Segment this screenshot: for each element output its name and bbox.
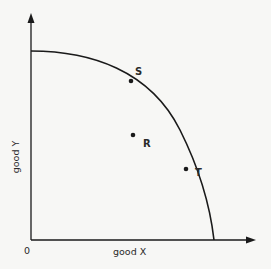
point-t-label: T: [195, 167, 202, 178]
x-axis-arrow-icon: [246, 237, 256, 244]
origin-label: 0: [24, 245, 30, 256]
diagram-svg: S T R 0 good X good Y: [0, 0, 271, 269]
frontier-curve: [31, 51, 214, 240]
y-axis-arrow-icon: [28, 13, 35, 23]
point-s-label: S: [135, 66, 142, 77]
ppf-diagram: S T R 0 good X good Y: [0, 0, 271, 269]
point-r-marker: [131, 133, 136, 138]
point-t-marker: [184, 167, 189, 172]
point-s-marker: [129, 79, 134, 84]
x-axis-label: good X: [113, 246, 147, 257]
point-r-label: R: [143, 138, 151, 149]
y-axis-label: good Y: [10, 141, 21, 174]
